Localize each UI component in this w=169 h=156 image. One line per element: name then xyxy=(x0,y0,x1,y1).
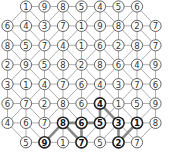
grid-node[interactable]: 3 xyxy=(2,79,13,90)
node-value: 6 xyxy=(79,118,85,128)
grid-node[interactable]: 4 xyxy=(94,1,105,12)
node-value: 9 xyxy=(23,60,28,70)
grid-node[interactable]: 5 xyxy=(113,1,124,12)
grid-node[interactable]: 2 xyxy=(131,20,142,31)
grid-node[interactable]: 3 xyxy=(113,79,124,90)
grid-node[interactable]: 4 xyxy=(57,40,68,51)
grid-node[interactable]: 6 xyxy=(76,79,87,90)
grid-node[interactable]: 9 xyxy=(39,1,50,12)
grid-node[interactable]: 6 xyxy=(131,1,142,12)
node-value: 9 xyxy=(97,21,102,31)
grid-node[interactable]: 8 xyxy=(131,40,142,51)
grid-node[interactable]: 9 xyxy=(150,98,161,109)
node-value: 7 xyxy=(153,41,158,51)
grid-node[interactable]: 1 xyxy=(76,40,87,51)
grid-node[interactable]: 7 xyxy=(150,20,161,31)
grid-node[interactable]: 6 xyxy=(2,98,13,109)
grid-node[interactable]: 5 xyxy=(20,40,31,51)
node-value: 5 xyxy=(134,99,139,109)
node-value: 5 xyxy=(116,2,121,12)
node-value: 2 xyxy=(116,138,122,148)
node-value: 7 xyxy=(79,138,85,148)
node-value: 7 xyxy=(134,138,139,148)
grid-node[interactable]: 1 xyxy=(57,137,68,148)
node-value: 5 xyxy=(23,138,28,148)
grid-node[interactable]: 7 xyxy=(131,137,142,148)
node-value: 6 xyxy=(5,21,10,31)
grid-node[interactable]: 8 xyxy=(113,20,124,31)
grid-node[interactable]: 6 xyxy=(2,20,13,31)
grid-node[interactable]: 5 xyxy=(94,117,105,128)
grid-node[interactable]: 1 xyxy=(20,79,31,90)
grid-node[interactable]: 2 xyxy=(113,137,124,148)
grid-node[interactable]: 9 xyxy=(94,20,105,31)
grid-node[interactable]: 4 xyxy=(2,117,13,128)
grid-node[interactable]: 9 xyxy=(39,137,50,148)
grid-node[interactable]: 8 xyxy=(57,117,68,128)
grid-node[interactable]: 7 xyxy=(39,117,50,128)
grid-node[interactable]: 8 xyxy=(150,117,161,128)
node-value: 6 xyxy=(116,60,121,70)
node-value: 2 xyxy=(79,60,84,70)
grid-node[interactable]: 4 xyxy=(20,20,31,31)
grid-node[interactable]: 1 xyxy=(113,98,124,109)
node-value: 5 xyxy=(23,41,28,51)
node-value: 7 xyxy=(153,21,158,31)
grid-node[interactable]: 8 xyxy=(57,98,68,109)
grid-node[interactable]: 7 xyxy=(20,98,31,109)
grid-node[interactable]: 4 xyxy=(94,79,105,90)
grid-node[interactable]: 6 xyxy=(76,98,87,109)
grid-node[interactable]: 5 xyxy=(20,137,31,148)
grid-node[interactable]: 5 xyxy=(94,137,105,148)
grid-node[interactable]: 6 xyxy=(150,79,161,90)
grid-node[interactable]: 6 xyxy=(113,59,124,70)
grid-node[interactable]: 8 xyxy=(2,40,13,51)
grid-node[interactable]: 1 xyxy=(76,20,87,31)
grid-node[interactable]: 4 xyxy=(131,59,142,70)
grid-node[interactable]: 9 xyxy=(20,59,31,70)
node-value: 3 xyxy=(116,118,122,128)
node-value: 7 xyxy=(42,118,47,128)
grid-node[interactable]: 5 xyxy=(39,59,50,70)
grid-node[interactable]: 2 xyxy=(113,40,124,51)
grid-node[interactable]: 4 xyxy=(94,98,105,109)
grid-node[interactable]: 6 xyxy=(94,40,105,51)
node-value: 7 xyxy=(42,41,47,51)
node-value: 4 xyxy=(23,21,28,31)
node-value: 5 xyxy=(97,118,103,128)
grid-node[interactable]: 6 xyxy=(20,117,31,128)
grid-node[interactable]: 9 xyxy=(150,59,161,70)
node-value: 3 xyxy=(5,80,10,90)
grid-node[interactable]: 7 xyxy=(131,79,142,90)
node-value: 8 xyxy=(60,118,66,128)
grid-node[interactable]: 3 xyxy=(113,117,124,128)
node-value: 4 xyxy=(5,118,10,128)
grid-node[interactable]: 2 xyxy=(76,59,87,70)
node-value: 4 xyxy=(97,80,102,90)
node-value: 1 xyxy=(134,118,140,128)
grid-node[interactable]: 1 xyxy=(20,1,31,12)
grid-node[interactable]: 7 xyxy=(150,40,161,51)
node-value: 8 xyxy=(5,41,10,51)
grid-node[interactable]: 8 xyxy=(94,59,105,70)
grid-node[interactable]: 8 xyxy=(57,1,68,12)
grid-node[interactable]: 7 xyxy=(39,40,50,51)
node-value: 4 xyxy=(134,60,139,70)
grid-node[interactable]: 8 xyxy=(57,59,68,70)
grid-node[interactable]: 2 xyxy=(39,98,50,109)
grid-node[interactable]: 5 xyxy=(131,98,142,109)
grid-node[interactable]: 5 xyxy=(76,1,87,12)
grid-node[interactable]: 4 xyxy=(39,79,50,90)
grid-node[interactable]: 6 xyxy=(76,117,87,128)
grid-node[interactable]: 7 xyxy=(76,137,87,148)
grid-node[interactable]: 1 xyxy=(131,117,142,128)
node-value: 6 xyxy=(97,41,102,51)
grid-node[interactable]: 2 xyxy=(2,59,13,70)
node-value: 7 xyxy=(60,80,65,90)
grid-node[interactable]: 7 xyxy=(57,79,68,90)
grid-node[interactable]: 7 xyxy=(57,20,68,31)
node-value: 2 xyxy=(5,60,10,70)
grid-node[interactable]: 3 xyxy=(39,20,50,31)
node-value: 5 xyxy=(42,60,47,70)
node-value: 2 xyxy=(42,99,47,109)
